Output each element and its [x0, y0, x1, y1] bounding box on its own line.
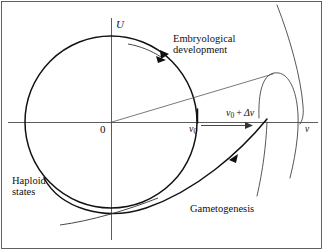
- haploid-line-2: states: [12, 186, 46, 197]
- v0-label: v0: [189, 124, 197, 136]
- fold-curve: [259, 73, 298, 178]
- fold-lower-tail: [257, 122, 267, 196]
- outer-upper-branch: [277, 5, 303, 124]
- gametogenesis-arrowhead: [229, 154, 238, 163]
- v0-plus-delta-label: v0 + Δv: [226, 108, 254, 120]
- haploid-states-label: Haploid states: [12, 175, 46, 198]
- embryological-line-2: development: [173, 44, 235, 55]
- embryological-line-1: Embryological: [173, 33, 235, 44]
- delta-v-symbol: Δv: [244, 107, 254, 118]
- u-axis-label: U: [116, 19, 124, 31]
- figure-frame: [2, 2, 322, 249]
- haploid-line-1: Haploid: [12, 175, 46, 186]
- gametogenesis-label: Gametogenesis: [190, 203, 254, 214]
- v-axis-label: v: [305, 124, 309, 134]
- v0-subscript: 0: [193, 127, 197, 136]
- embryological-leader-line: [128, 44, 161, 57]
- embryological-development-label: Embryological development: [173, 33, 235, 56]
- displacement-arrowhead: [245, 122, 253, 129]
- origin-label: 0: [100, 124, 106, 136]
- diagram-canvas: [0, 0, 323, 250]
- haploid-states-circle: [25, 36, 197, 208]
- figure-container: U v 0 v0 v0 + Δv Embryological developme…: [0, 0, 323, 250]
